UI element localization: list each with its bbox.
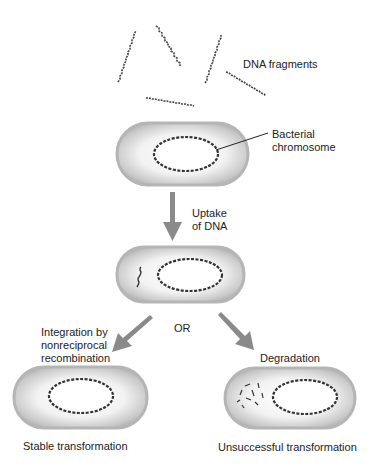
bacterial-cell-stable [14,367,147,428]
label-unsuccessful-transformation: Unsuccessful transformation [218,441,357,454]
uptake-arrow [163,192,182,241]
integration-arrow [112,315,153,352]
label-or: OR [174,322,191,335]
bacterial-cell-degraded [225,368,355,428]
label-recombination: recombination [41,352,110,365]
label-nonreciprocal: nonreciprocal [41,339,107,352]
label-degradation: Degradation [260,352,320,365]
label-bacterial: Bacterial [272,128,315,141]
label-chromosome: chromosome [272,141,336,154]
label-stable-transformation: Stable transformation [23,440,128,453]
bacterial-cell-initial [117,123,268,185]
label-integration: Integration by [41,326,108,339]
bacterial-cell-uptake [117,247,244,302]
label-dna-fragments: DNA fragments [243,58,318,71]
degradation-arrow [218,312,254,350]
label-of-dna: of DNA [192,220,227,233]
label-uptake: Uptake [192,207,227,220]
